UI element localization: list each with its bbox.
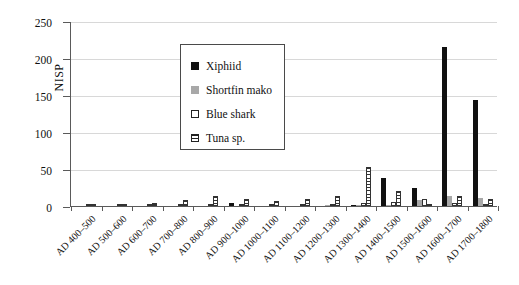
x-axis-tick	[163, 206, 164, 211]
legend-item-mako: Shortfin mako	[191, 78, 284, 102]
bar-group	[437, 22, 468, 206]
legend-swatch-xiphiid-icon	[191, 62, 199, 70]
x-axis-tick	[315, 206, 316, 211]
bar-tuna	[213, 196, 218, 206]
x-axis-tick	[407, 206, 408, 211]
bar-tuna	[183, 200, 188, 206]
bar-tuna	[91, 204, 96, 206]
bar-group	[376, 22, 407, 206]
bar-group	[407, 22, 438, 206]
y-axis-tick: 250	[63, 22, 70, 23]
legend-item-blue: Blue shark	[191, 102, 284, 126]
bar-tuna	[457, 196, 462, 206]
y-axis-tick-label: 250	[35, 17, 52, 29]
bar-tuna	[152, 203, 157, 206]
bar-tuna	[427, 204, 432, 206]
y-axis-tick: 150	[63, 96, 70, 97]
bar-tuna	[274, 201, 279, 206]
legend-label: Tuna sp.	[206, 132, 245, 144]
bar-group	[315, 22, 346, 206]
y-axis-tick-label: 50	[41, 165, 53, 177]
y-axis-tick: 200	[63, 59, 70, 60]
x-axis-tick	[102, 206, 103, 211]
bar-group	[102, 22, 133, 206]
y-axis-title: NISP	[52, 33, 67, 123]
legend-swatch-tuna-icon	[191, 134, 199, 142]
y-axis-tick: 100	[63, 133, 70, 134]
x-axis-tick	[132, 206, 133, 211]
bar-group	[468, 22, 499, 206]
bar-tuna	[244, 199, 249, 206]
legend-label: Blue shark	[206, 108, 256, 120]
y-axis-tick-label: 100	[35, 128, 52, 140]
legend-item-xiphiid: Xiphiid	[191, 54, 284, 78]
legend-swatch-blue-icon	[191, 110, 199, 118]
x-axis-tick	[468, 206, 469, 211]
bar-group	[71, 22, 102, 206]
x-axis-tick	[346, 206, 347, 211]
x-axis-tick	[285, 206, 286, 211]
x-axis-tick	[437, 206, 438, 211]
bar-tuna	[488, 199, 493, 206]
x-axis-tick	[71, 206, 72, 211]
chart-figure: NISP 050100150200250 AD 400–500AD 500–60…	[0, 0, 519, 285]
x-axis-tick	[254, 206, 255, 211]
bar-group	[346, 22, 377, 206]
bar-group	[285, 22, 316, 206]
y-axis-tick-label: 150	[35, 91, 52, 103]
bar-xiphiid	[381, 178, 386, 206]
bar-xiphiid	[442, 47, 447, 206]
plot-area: 050100150200250 AD 400–500AD 500–600AD 6…	[70, 22, 497, 207]
legend-label: Shortfin mako	[206, 84, 272, 96]
x-axis-tick	[498, 206, 499, 211]
bar-tuna	[122, 204, 127, 206]
legend-swatch-mako-icon	[191, 86, 199, 94]
bar-tuna	[366, 167, 371, 206]
bar-xiphiid	[473, 100, 478, 206]
y-axis-tick: 0	[63, 207, 70, 208]
bar-tuna	[396, 191, 401, 206]
bar-tuna	[305, 199, 310, 206]
y-axis-tick: 50	[63, 170, 70, 171]
bar-tuna	[335, 196, 340, 206]
bar-xiphiid	[229, 203, 234, 206]
y-axis-tick-label: 0	[46, 202, 52, 214]
legend-item-tuna: Tuna sp.	[191, 126, 284, 150]
y-axis-tick-label: 200	[35, 54, 52, 66]
legend-label: Xiphiid	[206, 60, 241, 72]
x-axis-tick	[193, 206, 194, 211]
x-axis-tick	[376, 206, 377, 211]
x-axis-tick	[224, 206, 225, 211]
chart-legend: XiphiidShortfin makoBlue sharkTuna sp.	[180, 44, 285, 150]
bar-group	[132, 22, 163, 206]
